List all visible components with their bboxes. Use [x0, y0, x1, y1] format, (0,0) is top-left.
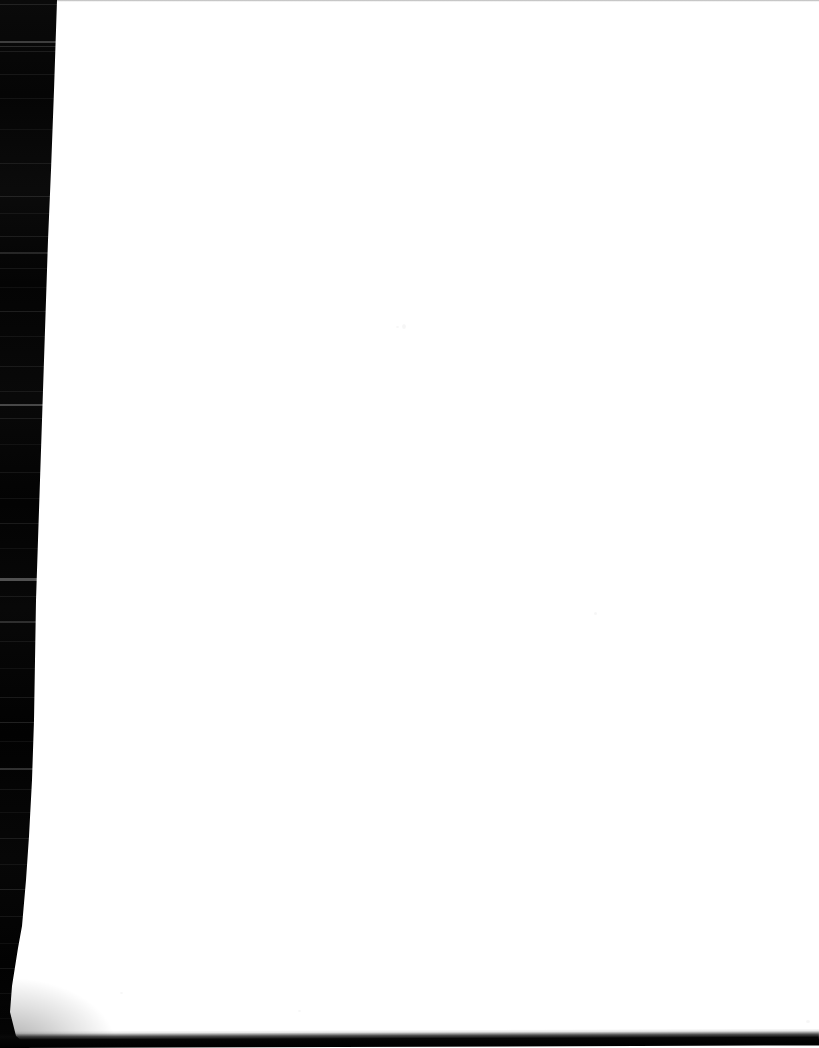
page-bottom-edge-shadow [0, 1028, 819, 1048]
page-top-edge-line [57, 0, 819, 2]
scanned-page-sheet [0, 0, 819, 1048]
scan-viewport: Blank scanned page [0, 0, 819, 1048]
